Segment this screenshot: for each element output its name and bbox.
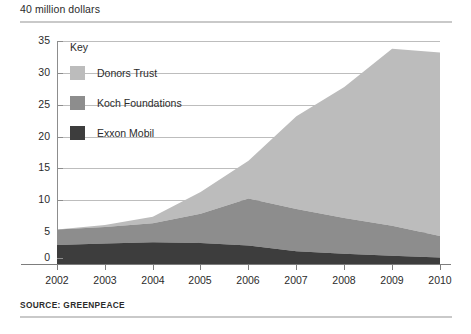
x-tick-mark [440, 264, 441, 270]
y-tick-stub [57, 73, 63, 74]
y-tick-stub [57, 105, 63, 106]
x-tick-mark [248, 264, 249, 270]
x-tick-label: 2008 [322, 274, 366, 286]
y-tick-group: 10 [14, 194, 50, 206]
y-tick-label: 5 [16, 226, 50, 237]
y-tick-label: 30 [16, 67, 50, 78]
x-tick-label: 2002 [35, 274, 79, 286]
y-axis-unit-label: 40 million dollars [20, 3, 100, 15]
y-tick-label: 15 [16, 162, 50, 173]
y-tick-group: 25 [14, 99, 50, 111]
legend-label-donors-trust: Donors Trust [97, 67, 157, 79]
y-tick-label: 0 [16, 252, 50, 263]
legend-label-exxon-mobil: Exxon Mobil [97, 127, 154, 139]
x-tick-label: 2006 [226, 274, 270, 286]
x-tick-label: 2010 [418, 274, 462, 286]
footer-divider [20, 316, 452, 318]
x-tick-label: 2004 [131, 274, 175, 286]
y-tick-label: 10 [16, 194, 50, 205]
y-tick-stub [57, 200, 63, 201]
y-tick-stub [57, 41, 63, 42]
y-tick-group: 15 [14, 162, 50, 174]
y-tick-stub [57, 258, 63, 259]
y-tick-group: 30 [14, 67, 50, 79]
x-tick-mark [105, 264, 106, 270]
x-tick-mark [200, 264, 201, 270]
y-tick-label: 20 [16, 131, 50, 142]
legend-swatch-koch-foundations [70, 96, 85, 110]
source-credit: SOURCE: GREENPEACE [20, 300, 125, 310]
y-tick-label: 35 [16, 35, 50, 46]
x-tick-label: 2003 [83, 274, 127, 286]
legend-swatch-donors-trust [70, 66, 85, 80]
x-tick-mark [392, 264, 393, 270]
y-tick-stub [57, 168, 63, 169]
y-tick-group: 20 [14, 131, 50, 143]
legend-title: Key [70, 41, 88, 53]
x-axis-line [21, 264, 451, 265]
x-tick-label: 2005 [178, 274, 222, 286]
x-tick-label: 2009 [370, 274, 414, 286]
x-tick-mark [344, 264, 345, 270]
x-tick-mark [296, 264, 297, 270]
y-tick-label: 25 [16, 99, 50, 110]
y-tick-stub [57, 232, 63, 233]
y-tick-group: 5 [14, 226, 50, 238]
header-divider [20, 21, 452, 23]
y-tick-group: 0 [14, 252, 50, 264]
chart-figure: 40 million dollars 35 30 25 20 1 [0, 0, 471, 334]
x-tick-label: 2007 [274, 274, 318, 286]
x-tick-mark [153, 264, 154, 270]
y-tick-group: 35 [14, 35, 50, 47]
x-tick-mark [57, 264, 58, 270]
legend-swatch-exxon-mobil [70, 126, 85, 140]
legend-label-koch-foundations: Koch Foundations [97, 97, 182, 109]
y-tick-stub [57, 137, 63, 138]
